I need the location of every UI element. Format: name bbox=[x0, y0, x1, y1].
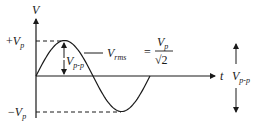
peak-to-peak-subscript: p-p bbox=[238, 76, 250, 85]
amplitude-subscript: p-p bbox=[72, 61, 84, 70]
sine-wave-diagram: V t +Vp −Vp Vp-p Vrms = Vp √2 Vp-p bbox=[0, 0, 261, 126]
rms-label: Vrms bbox=[107, 46, 126, 62]
x-axis-label: t bbox=[220, 69, 224, 83]
rms-numerator-subscript: p bbox=[163, 42, 168, 51]
rms-numerator: Vp bbox=[157, 35, 168, 51]
rms-subscript: rms bbox=[114, 53, 126, 62]
y-axis-label: V bbox=[32, 3, 41, 17]
amplitude-label: Vp-p bbox=[66, 54, 84, 70]
rms-denominator: √2 bbox=[155, 53, 168, 67]
positive-peak-label: +Vp bbox=[6, 34, 24, 50]
rms-equals-sign: = bbox=[144, 45, 151, 59]
peak-to-peak-label: Vp-p bbox=[232, 69, 250, 85]
negative-peak-label: −Vp bbox=[8, 105, 26, 121]
negative-peak-subscript: p bbox=[21, 112, 26, 121]
positive-peak-subscript: p bbox=[19, 41, 24, 50]
